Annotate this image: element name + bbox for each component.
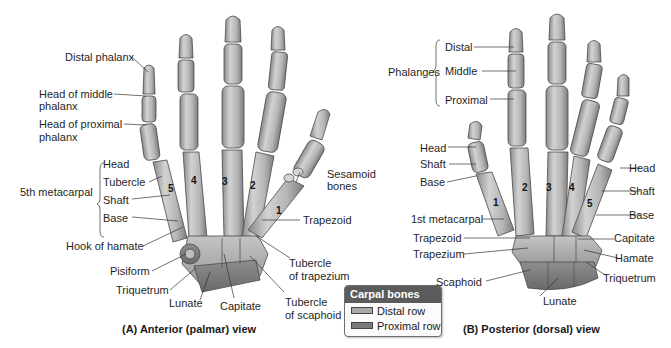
label-sesamoid-line2: bones xyxy=(327,180,357,192)
label-pisiform: Pisiform xyxy=(110,265,150,277)
finger-4-anterior xyxy=(178,35,207,239)
label-base-5th: Base xyxy=(103,212,128,224)
label-trapezium-b: Trapezium xyxy=(413,248,465,260)
metacarpal-number-2-a: 2 xyxy=(250,180,256,191)
label-trapezoid-b: Trapezoid xyxy=(413,232,462,244)
legend-label-proximal: Proximal row xyxy=(377,320,441,332)
label-capitate-b: Capitate xyxy=(614,232,655,244)
label-hook-of-hamate: Hook of hamate xyxy=(66,240,144,252)
label-base-right-b: Base xyxy=(629,209,654,221)
legend-label-distal: Distal row xyxy=(377,305,425,317)
finger-3-posterior xyxy=(546,14,568,236)
label-lunate-a: Lunate xyxy=(169,297,203,309)
label-capitate-a: Capitate xyxy=(220,300,261,312)
label-middle-b: Middle xyxy=(445,65,477,77)
metacarpal-number-4-b: 4 xyxy=(569,182,575,193)
label-hamate-b: Hamate xyxy=(615,252,654,264)
label-tubercle-scaphoid-line1: Tubercle xyxy=(285,296,327,308)
label-head-5th: Head xyxy=(103,158,129,170)
label-lunate-b: Lunate xyxy=(543,295,577,307)
finger-2-posterior xyxy=(508,29,534,237)
metacarpal-number-1-b: 1 xyxy=(493,197,499,208)
label-triquetrum-a: Triquetrum xyxy=(116,284,169,296)
label-tubercle-trapezium-line2: of trapezium xyxy=(289,270,350,282)
metacarpal-number-1-a: 1 xyxy=(276,205,282,216)
legend-item-distal-row: Distal row xyxy=(345,303,441,318)
label-shaft-left-b: Shaft xyxy=(420,158,446,170)
metacarpal-number-3-a: 3 xyxy=(222,176,228,187)
legend-swatch-proximal xyxy=(351,322,373,329)
metacarpal-number-2-b: 2 xyxy=(522,182,528,193)
carpals-posterior xyxy=(512,236,602,290)
carpals-anterior xyxy=(180,236,268,292)
finger-3-anterior xyxy=(222,16,244,238)
label-1st-metacarpal: 1st metacarpal xyxy=(411,213,483,225)
label-head-right-b: Head xyxy=(629,162,655,174)
label-head-proximal-phalanx-line2: phalanx xyxy=(39,131,78,143)
label-head-middle-phalanx-line1: Head of middle xyxy=(39,88,113,100)
label-shaft-right-b: Shaft xyxy=(629,185,655,197)
label-shaft-5th: Shaft xyxy=(103,194,129,206)
legend-title: Carpal bones xyxy=(345,286,441,303)
metacarpal-number-4-a: 4 xyxy=(191,175,197,186)
label-phalanges: Phalanges xyxy=(388,66,440,78)
label-base-left-b: Base xyxy=(420,176,445,188)
legend-item-proximal-row: Proximal row xyxy=(345,318,441,333)
caption-posterior: (B) Posterior (dorsal) view xyxy=(463,323,600,335)
caption-anterior: (A) Anterior (palmar) view xyxy=(122,323,256,335)
anterior-hand xyxy=(140,16,330,292)
posterior-hand xyxy=(467,14,629,290)
label-head-proximal-phalanx-line1: Head of proximal xyxy=(39,118,122,130)
label-tubercle: Tubercle xyxy=(103,176,145,188)
legend-swatch-distal xyxy=(351,307,373,314)
label-trapezoid-a: Trapezoid xyxy=(303,214,352,226)
metacarpal-number-5-a: 5 xyxy=(168,183,174,194)
label-head-left-b: Head xyxy=(420,142,446,154)
finger-5-posterior xyxy=(572,75,629,239)
label-triquetrum-b: Triquetrum xyxy=(603,272,656,284)
metacarpal-number-5-b: 5 xyxy=(587,198,593,209)
label-head-middle-phalanx-line2: phalanx xyxy=(39,100,78,112)
label-proximal-b: Proximal xyxy=(445,94,488,106)
label-distal-b: Distal xyxy=(445,41,473,53)
label-sesamoid-line1: Sesamoid xyxy=(327,168,376,180)
metacarpal-number-3-b: 3 xyxy=(546,182,552,193)
label-5th-metacarpal: 5th metacarpal xyxy=(20,186,93,198)
label-tubercle-trapezium-line1: Tubercle xyxy=(289,257,331,269)
hand-bones-figure: Distal phalanx Head of middle phalanx He… xyxy=(0,0,671,348)
label-tubercle-scaphoid-line2: of scaphoid xyxy=(285,309,341,321)
label-distal-phalanx: Distal phalanx xyxy=(65,51,134,63)
carpal-bones-legend: Carpal bones Distal row Proximal row xyxy=(344,285,442,337)
label-scaphoid-b: Scaphoid xyxy=(436,276,482,288)
